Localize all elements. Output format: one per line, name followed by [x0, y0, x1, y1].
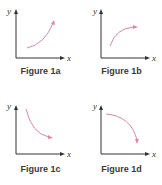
curve-arrow-icon: [133, 25, 138, 29]
curve: [106, 114, 137, 140]
figure-1a: y x Figure 1a: [0, 0, 81, 92]
figure-caption: Figure 1d: [81, 164, 162, 174]
curve: [27, 23, 53, 48]
y-axis-label: y: [92, 101, 97, 111]
y-axis-arrow-icon: [14, 9, 18, 14]
x-axis-label: x: [151, 149, 156, 159]
y-axis-arrow-icon: [99, 9, 103, 14]
figure-1c: y x Figure 1c: [0, 92, 81, 184]
x-axis-label: x: [151, 53, 156, 63]
curve-arrow-icon: [135, 139, 139, 144]
curve-arrow-icon: [51, 20, 55, 25]
x-axis-arrow-icon: [60, 56, 65, 60]
x-axis-arrow-icon: [60, 152, 65, 156]
curve: [26, 109, 49, 137]
y-axis-label: y: [6, 6, 11, 16]
figure-1a-graph: y x: [0, 0, 81, 92]
figure-caption: Figure 1c: [0, 164, 81, 174]
axes: [16, 108, 62, 154]
y-axis-arrow-icon: [99, 105, 103, 110]
axes: [16, 12, 62, 58]
figure-caption: Figure 1b: [81, 66, 162, 76]
axes: [101, 108, 147, 154]
curve: [110, 27, 134, 46]
figure-1d: y x Figure 1d: [81, 92, 162, 184]
figure-1b: y x Figure 1b: [81, 0, 162, 92]
x-axis-arrow-icon: [145, 56, 150, 60]
x-axis-label: x: [66, 149, 71, 159]
x-axis-arrow-icon: [145, 152, 150, 156]
y-axis-label: y: [6, 101, 11, 111]
axes: [101, 12, 147, 58]
figure-caption: Figure 1a: [0, 66, 81, 76]
x-axis-label: x: [66, 53, 71, 63]
y-axis-label: y: [92, 6, 97, 16]
y-axis-arrow-icon: [14, 105, 18, 110]
curve-arrow-icon: [48, 135, 53, 139]
figure-1b-graph: y x: [81, 0, 162, 92]
